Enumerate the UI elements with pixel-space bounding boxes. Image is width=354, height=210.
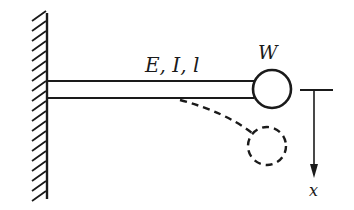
cantilever-diagram: E, I, l W x xyxy=(0,0,354,210)
deflected-mass xyxy=(248,127,286,165)
end-mass xyxy=(253,70,291,108)
mass-label: W xyxy=(258,41,279,63)
displacement-axis-label: x xyxy=(309,181,318,200)
deflected-beam-curve xyxy=(180,100,252,133)
fixed-wall-support xyxy=(32,11,47,201)
beam-properties-label: E, I, l xyxy=(144,53,199,77)
beam xyxy=(47,81,254,98)
arrow-head-icon xyxy=(310,164,318,178)
wall-hatching xyxy=(32,11,46,201)
